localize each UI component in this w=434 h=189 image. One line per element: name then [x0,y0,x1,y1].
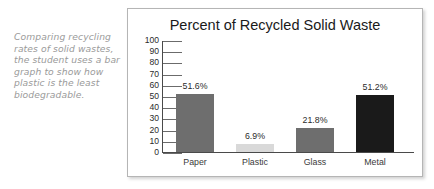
y-tick-label: 30 [149,113,159,123]
category-label: Metal [364,157,386,167]
bar-glass: 21.8%Glass [296,128,334,152]
y-tick-label: 70 [149,69,159,79]
y-tick-label: 90 [149,46,159,56]
y-tick-label: 60 [149,80,159,90]
x-axis-line [162,152,414,153]
y-tick-label: 50 [149,91,159,101]
bar-metal: 51.2%Metal [356,95,394,152]
y-tick-label: 0 [154,147,159,157]
y-tick-label: 40 [149,102,159,112]
explanatory-caption: Comparing recycling rates of solid waste… [14,31,122,101]
chart-panel: Percent of Recycled Solid Waste 01020304… [127,8,423,177]
chart-title: Percent of Recycled Solid Waste [128,17,422,33]
y-tick: 80 [163,63,182,64]
y-tick-label: 20 [149,125,159,135]
category-label: Plastic [242,157,268,167]
y-tick: 90 [163,52,182,53]
bar-value-label: 6.9% [245,131,265,141]
bar-value-label: 51.2% [363,82,388,92]
bar-value-label: 21.8% [303,115,328,125]
y-tick-label: 10 [149,136,159,146]
y-tick-label: 80 [149,57,159,67]
bar-plastic: 6.9%Plastic [236,144,274,152]
category-label: Paper [183,157,206,167]
bar-paper: 51.6%Paper [176,94,214,152]
y-tick-label: 100 [145,35,159,45]
y-tick: 70 [163,75,182,76]
y-tick: 0 [163,153,182,154]
category-label: Glass [304,157,327,167]
plot-area: 0102030405060708090100 51.6%Paper6.9%Pla… [162,41,410,153]
y-tick: 60 [163,86,182,87]
y-tick: 100 [163,41,182,42]
bar-value-label: 51.6% [183,81,208,91]
